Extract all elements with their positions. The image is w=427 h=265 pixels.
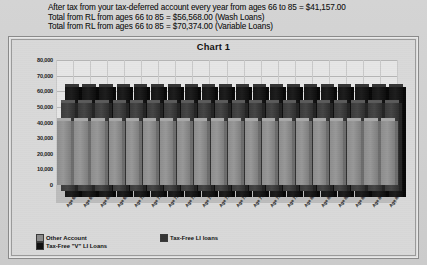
- bar-face: [313, 121, 326, 185]
- bar-side: [105, 121, 108, 185]
- screenshot-root: After tax from your tax-deferred account…: [0, 0, 427, 265]
- y-axis-tick: 70,000: [37, 73, 53, 79]
- y-axis-tick: 60,000: [37, 88, 53, 94]
- y-axis-tick: 10,000: [37, 166, 53, 172]
- bar: [194, 121, 207, 185]
- header-notes: After tax from your tax-deferred account…: [48, 3, 420, 32]
- bar: [262, 121, 275, 185]
- legend-item[interactable]: Tax-Free "V" LI Loans: [36, 242, 107, 250]
- bar-side: [399, 103, 402, 191]
- chart-title: Chart 1: [12, 42, 415, 52]
- bar-side: [122, 121, 125, 185]
- bar-side: [241, 121, 244, 185]
- chart-frame: Chart 1 010,00020,00030,00040,00050,0006…: [8, 36, 419, 259]
- bar: [296, 121, 309, 185]
- bar-side: [326, 121, 329, 185]
- bar: [279, 121, 292, 185]
- y-axis-tick: 20,000: [37, 151, 53, 157]
- bar-face: [262, 121, 275, 185]
- bar-face: [364, 121, 377, 185]
- bar-series-container: [56, 60, 397, 203]
- bar-side: [395, 121, 398, 185]
- bar-face: [279, 121, 292, 185]
- bar-face: [381, 121, 394, 185]
- bar-face: [91, 121, 104, 185]
- chart-legend: Other AccountTax-Free LI loansTax-Free "…: [18, 233, 409, 251]
- bar: [57, 121, 70, 185]
- y-axis-tick: 40,000: [37, 120, 53, 126]
- bar: [91, 121, 104, 185]
- plot-area: [56, 60, 397, 203]
- bar: [211, 121, 224, 185]
- bar-face: [211, 121, 224, 185]
- bar: [74, 121, 87, 185]
- chart-area: Chart 1 010,00020,00030,00040,00050,0006…: [11, 39, 416, 256]
- bar-face: [194, 121, 207, 185]
- bar: [381, 121, 394, 185]
- bar: [330, 121, 343, 185]
- bar: [143, 121, 156, 185]
- bar: [109, 121, 122, 185]
- bar-side: [309, 121, 312, 185]
- bar-face: [160, 121, 173, 185]
- bar-face: [74, 121, 87, 185]
- x-axis: Age 66Age 67Age 68Age 69Age 70Age 71Age …: [56, 203, 397, 233]
- bar-side: [190, 121, 193, 185]
- bar-face: [143, 121, 156, 185]
- bar-face: [296, 121, 309, 185]
- legend-swatch: [160, 234, 168, 242]
- bar-side: [224, 121, 227, 185]
- y-axis-tick: 30,000: [37, 135, 53, 141]
- bar-face: [57, 121, 70, 185]
- note-line-1: After tax from your tax-deferred account…: [48, 3, 420, 13]
- legend-label: Tax-Free "V" LI Loans: [46, 243, 107, 249]
- bar-side: [361, 121, 364, 185]
- legend-label: Other Account: [46, 235, 87, 241]
- bar-face: [245, 121, 258, 185]
- note-line-3: Total from RL from ages 66 to 85 = $70,3…: [48, 22, 420, 32]
- bar-side: [139, 121, 142, 185]
- legend-swatch: [36, 234, 44, 242]
- y-axis-tick: 80,000: [37, 57, 53, 63]
- bar-side: [275, 121, 278, 185]
- bar-side: [258, 121, 261, 185]
- bar-side: [71, 121, 74, 185]
- bar-face: [347, 121, 360, 185]
- bar-face: [330, 121, 343, 185]
- legend-label: Tax-Free LI loans: [170, 235, 218, 241]
- y-axis: 010,00020,00030,00040,00050,00060,00070,…: [12, 60, 56, 203]
- bar: [160, 121, 173, 185]
- bar: [228, 121, 241, 185]
- bar: [313, 121, 326, 185]
- bar: [245, 121, 258, 185]
- bar-side: [292, 121, 295, 185]
- bar-side: [403, 87, 406, 197]
- bar-side: [88, 121, 91, 185]
- bar: [177, 121, 190, 185]
- bar-face: [126, 121, 139, 185]
- note-line-2: Total from RL from ages 66 to 85 = $56,5…: [48, 13, 420, 23]
- bar: [347, 121, 360, 185]
- bar: [364, 121, 377, 185]
- y-axis-tick: 0: [50, 182, 53, 188]
- bar-face: [177, 121, 190, 185]
- bar-side: [173, 121, 176, 185]
- legend-swatch: [36, 242, 44, 250]
- bar-side: [156, 121, 159, 185]
- bar-face: [228, 121, 241, 185]
- bar-side: [378, 121, 381, 185]
- legend-item[interactable]: Tax-Free LI loans: [160, 234, 218, 242]
- legend-item[interactable]: Other Account: [36, 234, 87, 242]
- y-axis-tick: 50,000: [37, 104, 53, 110]
- bar: [126, 121, 139, 185]
- bar-side: [343, 121, 346, 185]
- bar-side: [207, 121, 210, 185]
- bar-face: [109, 121, 122, 185]
